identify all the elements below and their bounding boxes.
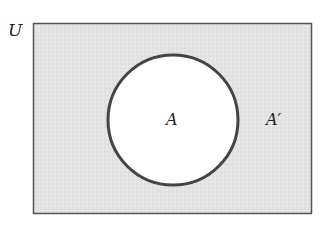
universe-label: U	[8, 20, 23, 40]
complement-label: A′	[264, 110, 282, 129]
venn-diagram: U A A′	[0, 0, 326, 226]
set-a-label: A	[164, 110, 178, 129]
